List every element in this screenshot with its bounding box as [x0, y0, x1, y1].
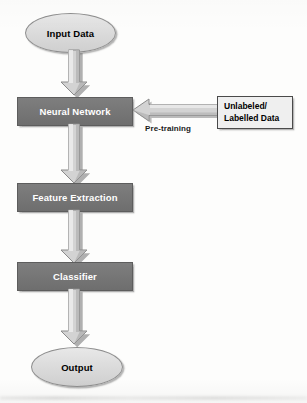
scan-artifact: [0, 396, 307, 400]
arrow-feature-extraction-to-classifier: [56, 210, 100, 270]
arrow-neural-network-to-feature-extraction: [56, 124, 100, 190]
node-output[interactable]: Output: [31, 347, 123, 387]
edge-label-pre-training: Pre-training: [145, 124, 191, 133]
arrow-classifier-to-output: [56, 289, 100, 351]
node-neural-network-label: Neural Network: [39, 106, 110, 117]
node-input-data-label: Input Data: [47, 28, 94, 39]
node-output-label: Output: [61, 362, 93, 373]
flowchart-canvas: Input Data Neural Network: [0, 0, 307, 403]
node-classifier[interactable]: Classifier: [17, 262, 133, 291]
node-data-label-line1: Unlabeled/: [224, 100, 287, 112]
node-feature-extraction[interactable]: Feature Extraction: [17, 183, 133, 212]
node-feature-extraction-label: Feature Extraction: [32, 192, 117, 203]
arrow-data-to-neural-network: [132, 99, 222, 126]
node-classifier-label: Classifier: [53, 271, 97, 282]
node-neural-network[interactable]: Neural Network: [17, 97, 133, 126]
node-input-data[interactable]: Input Data: [25, 13, 116, 53]
node-unlabeled-labelled-data[interactable]: Unlabeled/ Labelled Data: [217, 96, 293, 129]
arrow-input-to-neural-network: [56, 50, 100, 102]
node-data-label-line2: Labelled Data: [224, 112, 287, 124]
